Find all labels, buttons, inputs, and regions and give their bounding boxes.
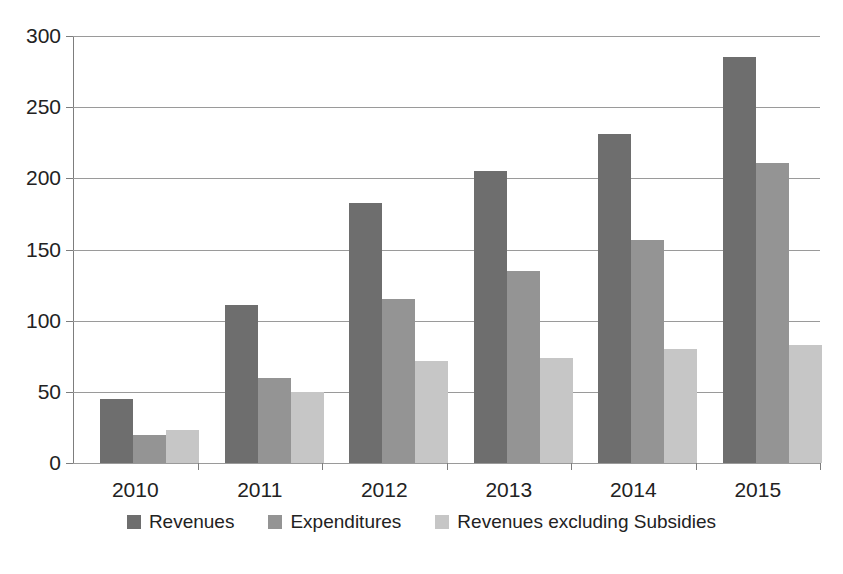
y-axis-tick-mark bbox=[66, 250, 73, 251]
legend-item[interactable]: Expenditures bbox=[268, 512, 401, 532]
bar bbox=[664, 349, 697, 463]
bar bbox=[349, 203, 382, 463]
bar bbox=[166, 430, 199, 463]
chart-legend: RevenuesExpendituresRevenues excluding S… bbox=[0, 512, 843, 532]
x-axis-labels: 201020112012201320142015 bbox=[73, 465, 820, 509]
x-axis-tick-label: 2011 bbox=[200, 479, 320, 501]
x-axis-tick-label: 2010 bbox=[75, 479, 195, 501]
legend-label: Revenues excluding Subsidies bbox=[457, 512, 716, 532]
x-axis-tick-label: 2015 bbox=[698, 479, 818, 501]
bar-group bbox=[696, 36, 821, 463]
legend-swatch-icon bbox=[268, 515, 282, 529]
y-axis-tick-mark bbox=[66, 36, 73, 37]
y-axis-tick-mark bbox=[66, 107, 73, 108]
y-axis-tick-mark bbox=[66, 178, 73, 179]
legend-label: Revenues bbox=[149, 512, 235, 532]
legend-item[interactable]: Revenues bbox=[127, 512, 235, 532]
x-axis-tick-label: 2014 bbox=[573, 479, 693, 501]
y-axis-tick-label: 100 bbox=[1, 310, 61, 331]
bar-group bbox=[447, 36, 572, 463]
bar bbox=[598, 134, 631, 463]
y-axis-tick-label: 300 bbox=[1, 25, 61, 46]
x-axis-tick-label: 2013 bbox=[449, 479, 569, 501]
bar bbox=[415, 361, 448, 463]
x-axis-tick-label: 2012 bbox=[324, 479, 444, 501]
bar-group bbox=[322, 36, 447, 463]
bar bbox=[225, 305, 258, 463]
y-axis-tick-label: 250 bbox=[1, 96, 61, 117]
bar bbox=[258, 378, 291, 463]
y-axis-tick-label: 0 bbox=[1, 452, 61, 473]
y-axis-tick-label: 150 bbox=[1, 239, 61, 260]
bar bbox=[507, 271, 540, 463]
bar bbox=[474, 171, 507, 463]
bar-group bbox=[73, 36, 198, 463]
y-axis-tick-mark bbox=[66, 463, 73, 464]
bar bbox=[382, 299, 415, 463]
legend-item[interactable]: Revenues excluding Subsidies bbox=[435, 512, 716, 532]
bar bbox=[133, 435, 166, 463]
bar-group bbox=[198, 36, 323, 463]
y-axis-tick-mark bbox=[66, 392, 73, 393]
y-axis-tick-mark bbox=[66, 321, 73, 322]
bar-chart: 050100150200250300 201020112012201320142… bbox=[0, 0, 843, 574]
bar bbox=[540, 358, 573, 463]
legend-swatch-icon bbox=[435, 515, 449, 529]
y-axis-tick-label: 200 bbox=[1, 167, 61, 188]
bar bbox=[723, 57, 756, 463]
bar bbox=[756, 163, 789, 463]
bar-group bbox=[571, 36, 696, 463]
x-axis-tick-mark bbox=[820, 463, 821, 470]
bar bbox=[291, 392, 324, 463]
bar bbox=[789, 345, 822, 463]
bar bbox=[631, 240, 664, 463]
legend-label: Expenditures bbox=[290, 512, 401, 532]
y-axis-tick-label: 50 bbox=[1, 381, 61, 402]
plot-area bbox=[73, 36, 820, 464]
legend-swatch-icon bbox=[127, 515, 141, 529]
bar bbox=[100, 399, 133, 463]
